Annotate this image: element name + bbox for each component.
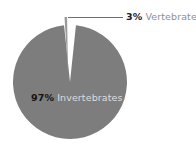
pie-chart-graphic <box>0 0 196 149</box>
pie-slice-invertebrates[interactable] <box>13 25 127 139</box>
slice-percent-invertebrates: 97% <box>31 92 54 103</box>
slice-label-vertebrates: 3% Vertebrates <box>126 11 196 22</box>
slice-name-invertebrates: Invertebrates <box>57 92 122 103</box>
slice-percent-vertebrates: 3% <box>126 11 142 22</box>
slice-label-invertebrates: 97% Invertebrates <box>31 92 123 103</box>
slice-name-vertebrates: Vertebrates <box>145 11 196 22</box>
pie-chart: 3% Vertebrates 97% Invertebrates <box>0 0 196 149</box>
